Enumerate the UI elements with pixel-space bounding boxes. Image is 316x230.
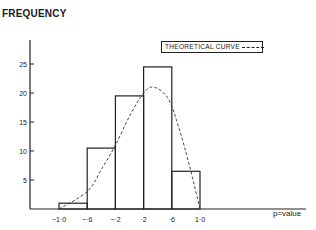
x-tick-label: −1·0 <box>52 216 66 223</box>
x-tick-label: ·2 <box>140 216 146 223</box>
x-tick-label: −·6 <box>82 216 92 223</box>
y-tick-label: 5 <box>23 177 27 184</box>
x-tick-label: ·6 <box>169 216 175 223</box>
y-tick-label: 10 <box>19 148 27 155</box>
x-tick-label: 1·0 <box>195 216 205 223</box>
dashed-line-icon <box>242 47 264 48</box>
histogram-bar <box>115 96 143 209</box>
theoretical-curve <box>59 87 200 209</box>
y-tick-label: 20 <box>19 90 27 97</box>
histogram-bar <box>172 171 200 209</box>
histogram-chart: 510152025−1·0−·6−·2·2·61·0 <box>0 0 316 230</box>
x-tick-label: −·2 <box>110 216 120 223</box>
histogram-bar <box>59 203 87 209</box>
y-tick-label: 25 <box>19 61 27 68</box>
legend: THEORETICAL CURVE <box>161 41 263 53</box>
legend-label: THEORETICAL CURVE <box>165 43 240 50</box>
x-axis-title: p=value <box>273 209 301 218</box>
histogram-bar <box>87 148 115 209</box>
histogram-bar <box>144 67 172 209</box>
y-tick-label: 15 <box>19 119 27 126</box>
